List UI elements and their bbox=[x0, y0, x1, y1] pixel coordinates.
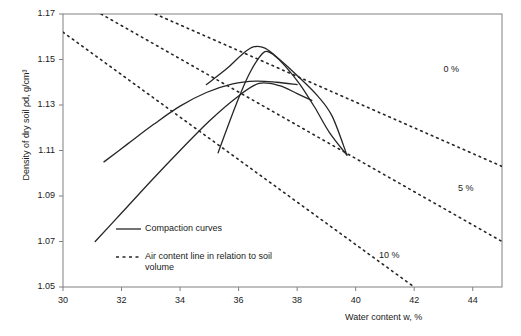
series-compaction-curve-1 bbox=[104, 81, 297, 162]
x-tick-label: 44 bbox=[456, 295, 490, 306]
series-compaction-curve-4 bbox=[218, 51, 347, 155]
x-tick-label: 40 bbox=[339, 295, 373, 306]
air-content-label: 0 % bbox=[443, 64, 459, 74]
legend-label-compaction-curves: Compaction curves bbox=[145, 223, 222, 234]
x-tick-label: 38 bbox=[280, 295, 314, 306]
axes-frame bbox=[63, 14, 502, 287]
series-compaction-curve-2 bbox=[95, 83, 312, 242]
series-compaction-curve-3 bbox=[206, 46, 346, 155]
series-air-content-line-10- bbox=[63, 32, 414, 287]
series-layer bbox=[63, 14, 502, 287]
y-tick-label: 1.09 bbox=[21, 190, 55, 201]
x-tick-label: 30 bbox=[46, 295, 80, 306]
x-tick-label: 42 bbox=[397, 295, 431, 306]
legend-label-air-content-line: Air content line in relation to soil vol… bbox=[145, 251, 272, 273]
air-content-label: 5 % bbox=[458, 183, 474, 193]
y-tick-label: 1.05 bbox=[21, 281, 55, 292]
x-tick-label: 34 bbox=[163, 295, 197, 306]
x-axis-label: Water content w, % bbox=[345, 312, 422, 323]
air-content-label: 10 % bbox=[379, 250, 400, 260]
x-tick-label: 32 bbox=[105, 295, 139, 306]
chart-figure: Density of dry soil ρd, g/cm³ Water cont… bbox=[0, 0, 521, 336]
series-air-content-line-5- bbox=[101, 14, 502, 242]
y-tick-label: 1.07 bbox=[21, 236, 55, 247]
y-tick-label: 1.11 bbox=[21, 145, 55, 156]
y-tick-label: 1.13 bbox=[21, 99, 55, 110]
tick-marks bbox=[59, 14, 473, 291]
chart-canvas bbox=[0, 0, 521, 336]
y-axis-label: Density of dry soil ρd, g/cm³ bbox=[21, 55, 31, 195]
y-tick-label: 1.17 bbox=[21, 8, 55, 19]
y-tick-label: 1.15 bbox=[21, 54, 55, 65]
legend-line-samples bbox=[116, 229, 141, 257]
x-tick-label: 36 bbox=[222, 295, 256, 306]
